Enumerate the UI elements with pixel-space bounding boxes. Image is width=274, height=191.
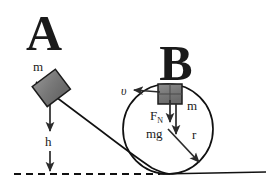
weight-label: mg (146, 126, 163, 141)
velocity-arrow (134, 90, 160, 92)
incline-block (32, 69, 70, 106)
velocity-label: υ (121, 84, 127, 98)
normal-force-subscript: N (157, 116, 163, 125)
normal-force-label: FN (150, 108, 163, 125)
mass-label-incline: m (33, 59, 43, 74)
radius-label: r (192, 127, 197, 142)
height-label: h (45, 134, 52, 149)
normal-force-base: F (150, 108, 157, 123)
panel-label-a: A (26, 5, 62, 61)
mass-label-loop: m (187, 98, 197, 113)
physics-diagram: A B h m υ FN (0, 0, 274, 191)
panel-label-b: B (159, 35, 192, 91)
diagram-canvas: A B h m υ FN (0, 0, 274, 191)
